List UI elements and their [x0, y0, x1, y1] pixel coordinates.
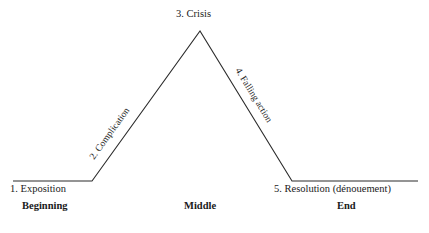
plot-curve — [0, 0, 429, 233]
section-label-beginning: Beginning — [22, 201, 68, 212]
plot-structure-diagram: 3. Crisis 2. Complication 4. Falling act… — [0, 0, 429, 233]
stage-label-crisis: 3. Crisis — [176, 9, 211, 20]
stage-label-resolution: 5. Resolution (dénouement) — [274, 184, 391, 195]
section-label-end: End — [337, 201, 356, 212]
stage-label-exposition: 1. Exposition — [10, 184, 66, 195]
section-label-middle: Middle — [184, 201, 216, 212]
freytag-pyramid-polyline — [13, 31, 418, 181]
